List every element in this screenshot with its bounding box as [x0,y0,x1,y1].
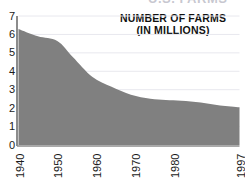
x-axis-tick-label: 1960 [92,154,103,178]
x-axis-tick-label: 1940 [15,154,26,178]
x-axis-tick-label: 1970 [131,154,142,178]
x-axis-tick-labels: 194019501960197019801997 [0,0,245,181]
chart-figure: U.S. FARMS NUMBER OF FARMS (IN MILLIONS)… [0,0,245,181]
x-axis-tick-label: 1980 [170,154,181,178]
x-axis-tick-label: 1950 [53,154,64,178]
x-axis-tick-label: 1997 [236,154,246,178]
